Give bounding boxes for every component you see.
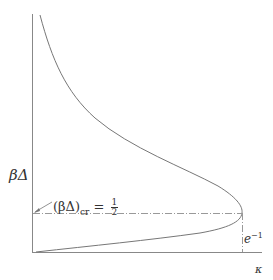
x-marker-exponent: −1 <box>251 231 263 240</box>
curve-upper-branch <box>40 15 242 213</box>
x-marker-label: e−1 <box>244 231 263 246</box>
diagram-canvas <box>0 0 273 280</box>
y-axis-label: βΔ <box>9 166 29 184</box>
critical-equals: = <box>89 199 108 214</box>
critical-fraction: 12 <box>111 198 119 217</box>
arrowhead-icon <box>34 208 40 213</box>
critical-value-label: (βΔ)cr = 12 <box>53 198 118 217</box>
critical-subscript: cr <box>80 207 89 217</box>
critical-prefix: (βΔ) <box>53 199 80 214</box>
fraction-denominator: 2 <box>111 208 119 217</box>
curve-lower-branch <box>36 213 242 252</box>
x-axis-label: κ <box>255 263 262 276</box>
